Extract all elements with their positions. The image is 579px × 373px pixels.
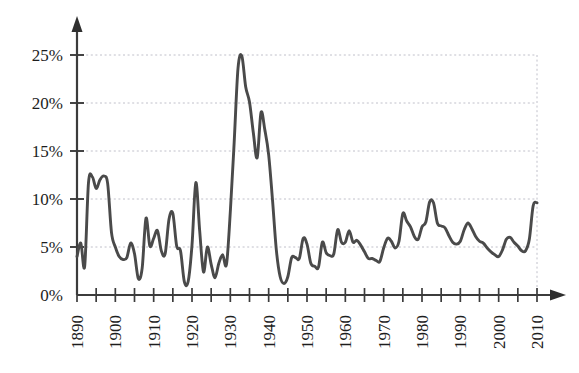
y-axis-tick-labels: 0%5%10%15%20%25% [32, 46, 63, 305]
x-axis-tick-labels: 1890190019101920193019401950196019701980… [68, 315, 547, 349]
series-line-unemployment-rate [77, 55, 537, 286]
y-axis-arrow-icon [72, 16, 83, 32]
y-tick-label: 15% [32, 142, 63, 161]
x-tick-label: 1910 [145, 315, 164, 349]
y-tick-label: 20% [32, 94, 63, 113]
x-tick-label: 1940 [260, 315, 279, 349]
gridlines [77, 55, 537, 295]
chart-canvas: 0%5%10%15%20%25% 18901900191019201930194… [0, 0, 579, 373]
x-tick-label: 2010 [528, 315, 547, 349]
x-axis-arrow-icon [550, 290, 566, 301]
y-tick-label: 25% [32, 46, 63, 65]
x-tick-label: 2000 [490, 315, 509, 349]
x-tick-label: 1970 [375, 315, 394, 349]
x-tick-label: 1990 [451, 315, 470, 349]
unemployment-rate-chart: 0%5%10%15%20%25% 18901900191019201930194… [0, 0, 579, 373]
x-tick-label: 1900 [106, 315, 125, 349]
y-tick-label: 0% [40, 286, 63, 305]
x-tick-label: 1920 [183, 315, 202, 349]
y-tick-label: 5% [40, 238, 63, 257]
x-tick-label: 1960 [336, 315, 355, 349]
x-tick-label: 1950 [298, 315, 317, 349]
x-tick-label: 1980 [413, 315, 432, 349]
data-series [77, 55, 537, 286]
x-tick-label: 1930 [221, 315, 240, 349]
y-tick-label: 10% [32, 190, 63, 209]
x-tick-label: 1890 [68, 315, 87, 349]
